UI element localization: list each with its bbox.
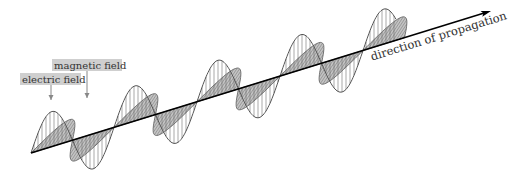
pointer-arrow-icon [49, 95, 54, 100]
wave-canvas: magnetic fieldelectric field direction o… [0, 0, 511, 194]
em-wave-diagram: magnetic fieldelectric field direction o… [0, 0, 511, 194]
labels: magnetic fieldelectric field [20, 59, 127, 100]
magnetic-field-label: magnetic field [54, 60, 127, 71]
propagation-axis [31, 13, 485, 153]
pointer-arrow-icon [85, 93, 90, 98]
electric-field-label: electric field [22, 74, 86, 85]
